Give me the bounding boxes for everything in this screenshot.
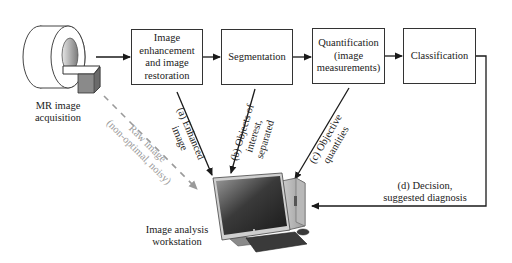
box-segmentation-label: Segmentation [228, 51, 286, 64]
mr-acquisition-label: MR image acquisition [23, 100, 93, 124]
box-image-enhancement: Image enhancement and image restoration [131, 29, 203, 85]
box-classification: Classification [403, 28, 476, 84]
mri-scanner-icon [23, 26, 100, 93]
computer-workstation-icon [213, 173, 309, 252]
edge-d-label: (d) Decision, suggested diagnosis [370, 180, 480, 204]
box-classification-label: Classification [411, 50, 469, 63]
box-image-enhancement-label: Image enhancement and image restoration [139, 32, 194, 82]
workstation-label: Image analysis workstation [138, 224, 216, 248]
box-quantification: Quantification (image measurements) [312, 28, 385, 84]
box-quantification-label: Quantification (image measurements) [317, 37, 381, 75]
box-segmentation: Segmentation [221, 29, 293, 85]
